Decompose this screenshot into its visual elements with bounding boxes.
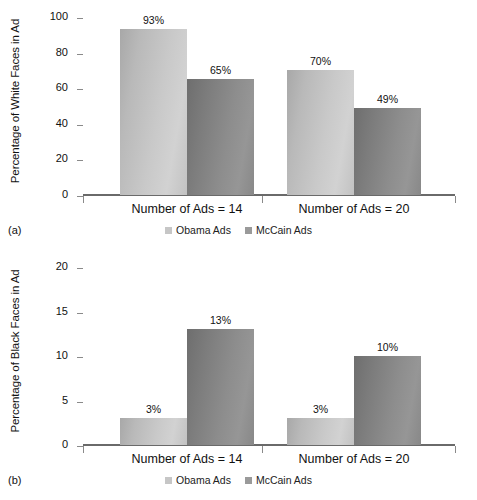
- category-label-b-1: Number of Ads = 20: [264, 452, 444, 466]
- bar-a-g1-mccain: 49%: [354, 108, 421, 195]
- bar-value-label: 10%: [377, 341, 398, 353]
- legend-swatch-mccain-icon: [245, 477, 252, 484]
- y-tick-label-a-5: 100: [50, 10, 68, 22]
- y-tick-label-a-0: 0: [62, 188, 68, 200]
- y-tick-b-2: 10: [77, 357, 83, 358]
- bar-b-g1-obama: 3%: [287, 418, 354, 445]
- bar-value-label: 65%: [210, 64, 231, 76]
- y-tick-a-4: 80: [77, 54, 83, 55]
- y-tick-label-a-4: 80: [56, 46, 68, 58]
- y-tick-label-a-2: 40: [56, 117, 68, 129]
- y-tick-b-4: 20: [77, 268, 83, 269]
- bar-a-g0-obama: 93%: [120, 29, 187, 195]
- y-tick-label-b-2: 10: [56, 349, 68, 361]
- bar-value-label: 70%: [310, 55, 331, 67]
- legend-item-mccain-b: McCain Ads: [245, 474, 312, 486]
- chart-panel-a: Percentage of White Faces in Ad 02040608…: [0, 0, 477, 250]
- bar-value-label: 49%: [377, 93, 398, 105]
- category-label-a-1: Number of Ads = 20: [264, 202, 444, 216]
- plot-area-b: 051015203%13%3%10%: [83, 268, 455, 446]
- legend-item-mccain-a: McCain Ads: [245, 224, 312, 236]
- y-tick-a-2: 40: [77, 125, 83, 126]
- bar-b-g1-mccain: 10%: [354, 356, 421, 445]
- y-tick-label-a-3: 60: [56, 81, 68, 93]
- y-tick-b-3: 15: [77, 313, 83, 314]
- bar-value-label: 3%: [313, 403, 328, 415]
- x-tick-a-0: [83, 196, 84, 203]
- y-tick-label-b-4: 20: [56, 260, 68, 272]
- bar-b-g0-obama: 3%: [120, 418, 187, 445]
- bar-value-label: 93%: [143, 14, 164, 26]
- legend-label-mccain: McCain Ads: [256, 474, 312, 486]
- legend-item-obama-a: Obama Ads: [165, 224, 231, 236]
- y-axis-title-b: Percentage of Black Faces in Ad: [9, 256, 27, 446]
- legend-swatch-obama-icon: [165, 227, 172, 234]
- y-tick-label-b-1: 5: [62, 394, 68, 406]
- bar-value-label: 3%: [146, 403, 161, 415]
- chart-panel-b: Percentage of Black Faces in Ad 05101520…: [0, 250, 477, 500]
- legend-item-obama-b: Obama Ads: [165, 474, 231, 486]
- y-tick-label-b-3: 15: [56, 305, 68, 317]
- category-label-a-0: Number of Ads = 14: [97, 202, 277, 216]
- legend-a: Obama Ads McCain Ads: [0, 224, 477, 236]
- legend-swatch-mccain-icon: [245, 227, 252, 234]
- y-tick-a-1: 20: [77, 160, 83, 161]
- y-axis-title-a: Percentage of White Faces in Ad: [9, 6, 27, 196]
- bar-a-g1-obama: 70%: [287, 70, 354, 195]
- y-tick-a-3: 60: [77, 89, 83, 90]
- y-tick-a-5: 100: [77, 18, 83, 19]
- legend-swatch-obama-icon: [165, 477, 172, 484]
- y-tick-label-b-0: 0: [62, 438, 68, 450]
- legend-label-obama: Obama Ads: [176, 474, 231, 486]
- legend-label-mccain: McCain Ads: [256, 224, 312, 236]
- x-tick-b-0: [83, 446, 84, 453]
- x-tick-b-2: [455, 446, 456, 453]
- x-tick-a-2: [455, 196, 456, 203]
- bar-a-g0-mccain: 65%: [187, 79, 254, 195]
- plot-area-a: 02040608010093%65%70%49%: [83, 18, 455, 196]
- category-label-b-0: Number of Ads = 14: [97, 452, 277, 466]
- bar-value-label: 13%: [210, 314, 231, 326]
- bar-b-g0-mccain: 13%: [187, 329, 254, 445]
- legend-label-obama: Obama Ads: [176, 224, 231, 236]
- legend-b: Obama Ads McCain Ads: [0, 474, 477, 486]
- y-tick-b-1: 5: [77, 402, 83, 403]
- y-tick-label-a-1: 20: [56, 152, 68, 164]
